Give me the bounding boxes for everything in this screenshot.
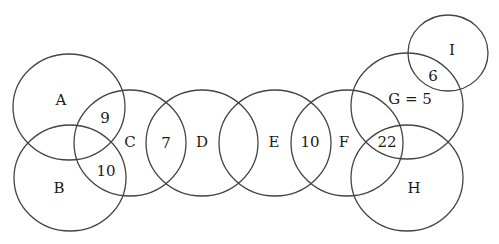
circle-i — [408, 15, 488, 91]
circle-label-b: B — [53, 179, 64, 197]
intersection-value-c-d: 7 — [161, 134, 171, 152]
circle-label-e: E — [269, 133, 280, 151]
circle-label-a: A — [55, 91, 67, 109]
circle-label-g: G = 5 — [388, 90, 432, 108]
intersection-value-g-i: 6 — [428, 67, 438, 85]
intersection-value-b-c: 10 — [96, 162, 115, 180]
circle-label-i: I — [449, 41, 455, 59]
intersection-value-a-c: 9 — [100, 109, 110, 127]
circle-h — [351, 125, 463, 231]
circle-label-d: D — [196, 133, 208, 151]
circle-label-c: C — [124, 133, 135, 151]
circle-label-f: F — [339, 133, 349, 151]
venn-diagram: ABCDEFG = 5HI910710226 — [0, 0, 499, 244]
circle-label-h: H — [407, 179, 420, 197]
intersection-value-f-g-h: 22 — [377, 133, 396, 151]
circle-a — [13, 54, 125, 160]
intersection-value-e-f: 10 — [300, 133, 319, 151]
